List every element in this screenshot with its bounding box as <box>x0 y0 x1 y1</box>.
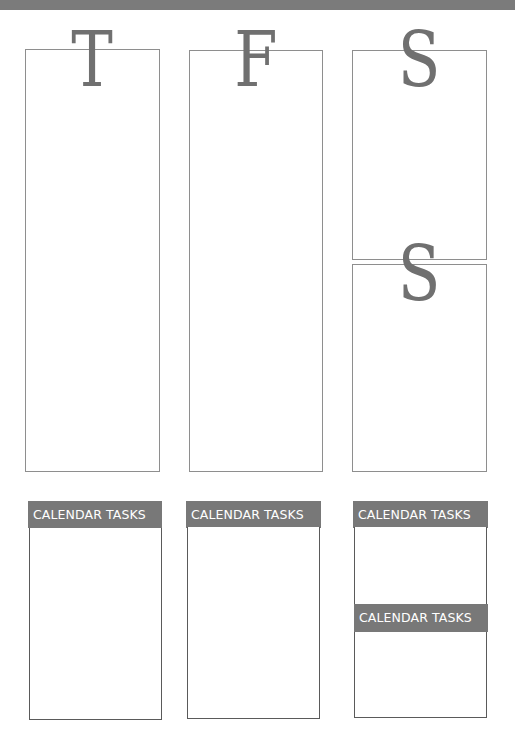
top-banner <box>0 0 515 10</box>
day-letter-friday: F <box>223 22 289 98</box>
day-letter-sunday: S <box>386 236 452 312</box>
task-box-sunday[interactable] <box>354 632 487 718</box>
task-header-saturday: CALENDAR TASKS <box>353 501 488 528</box>
task-box-thursday[interactable] <box>29 528 162 720</box>
day-box-friday[interactable] <box>189 50 323 472</box>
day-letter-thursday: T <box>59 22 125 98</box>
task-header-friday: CALENDAR TASKS <box>186 501 321 528</box>
day-box-thursday[interactable] <box>25 49 160 472</box>
day-letter-saturday: S <box>386 22 452 98</box>
task-header-thursday: CALENDAR TASKS <box>28 501 162 528</box>
task-box-saturday[interactable] <box>354 527 487 605</box>
task-header-sunday: CALENDAR TASKS <box>354 604 488 632</box>
task-box-friday[interactable] <box>187 527 320 719</box>
